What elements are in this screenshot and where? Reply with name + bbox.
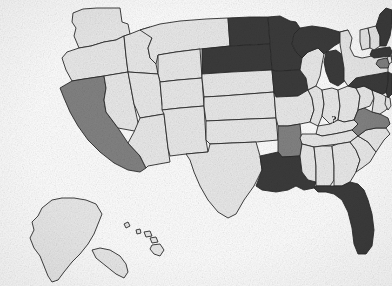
us-map-container: ? <box>0 0 392 286</box>
state-SD[interactable] <box>202 44 272 74</box>
state-NM[interactable] <box>162 106 208 156</box>
state-HI[interactable] <box>124 222 164 256</box>
state-FL[interactable] <box>314 182 374 254</box>
state-OK[interactable] <box>206 118 278 144</box>
state-AL[interactable] <box>314 146 334 186</box>
state-WY[interactable] <box>158 49 202 82</box>
state-TX[interactable] <box>186 142 262 218</box>
state-KS[interactable] <box>204 92 276 121</box>
annotation-question-mark: ? <box>331 113 337 125</box>
state-AR[interactable] <box>278 124 302 157</box>
us-choropleth-map[interactable]: ? <box>0 0 392 286</box>
state-CO[interactable] <box>160 78 204 110</box>
state-AK[interactable] <box>30 198 128 282</box>
state-ND[interactable] <box>228 17 270 46</box>
state-paths-group <box>30 8 392 282</box>
